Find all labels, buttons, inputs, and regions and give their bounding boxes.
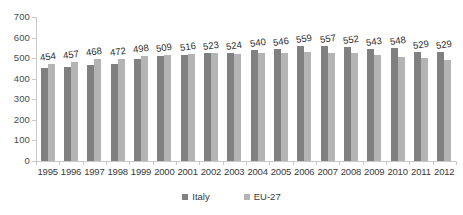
x-axis-tick (409, 161, 410, 165)
bar-italy[interactable] (134, 59, 141, 161)
x-axis-tick (433, 161, 434, 165)
y-axis-tick-label: 400 (4, 74, 30, 83)
bar-group: 468 (83, 17, 106, 161)
legend-item-italy[interactable]: Italy (182, 191, 209, 202)
bar-group: 516 (176, 17, 199, 161)
bar-eu-27[interactable] (188, 54, 195, 161)
bar-group: 548 (386, 17, 409, 161)
bar-group: 557 (316, 17, 339, 161)
bar-italy[interactable] (251, 50, 258, 161)
data-label: 516 (179, 41, 196, 53)
x-axis-category-labels: 1995199619971998199920002001200220032004… (36, 166, 456, 180)
bar-group: 498 (129, 17, 152, 161)
bar-italy[interactable] (274, 49, 281, 161)
bar-eu-27[interactable] (234, 54, 241, 161)
bar-italy[interactable] (64, 67, 71, 161)
data-label: 540 (249, 37, 266, 49)
bar-italy[interactable] (391, 48, 398, 161)
bar-italy[interactable] (41, 68, 48, 161)
y-axis-tick-label: 300 (4, 94, 30, 103)
x-axis-tick (106, 161, 107, 165)
bar-italy[interactable] (227, 53, 234, 161)
x-axis-tick-label: 2009 (363, 166, 386, 180)
bar-italy[interactable] (87, 65, 94, 161)
x-axis-tick (316, 161, 317, 165)
x-axis-tick-label: 2004 (246, 166, 269, 180)
bar-group: 540 (246, 17, 269, 161)
legend-item-eu-27[interactable]: EU-27 (244, 191, 281, 202)
bar-eu-27[interactable] (164, 55, 171, 161)
bar-italy[interactable] (181, 55, 188, 161)
bar-groups: 4544574684724985095165235245405465595575… (36, 17, 456, 161)
data-label: 524 (226, 40, 243, 52)
x-axis-tick (59, 161, 60, 165)
data-label: 523 (202, 40, 219, 52)
x-axis-tick (199, 161, 200, 165)
x-axis-tick-label: 1998 (106, 166, 129, 180)
bar-eu-27[interactable] (71, 62, 78, 161)
bar-eu-27[interactable] (118, 59, 125, 161)
x-axis-tick (293, 161, 294, 165)
data-label: 457 (62, 49, 79, 61)
x-axis-tick (363, 161, 364, 165)
data-label: 468 (86, 46, 103, 58)
legend-label: EU-27 (254, 191, 281, 202)
bar-group: 523 (199, 17, 222, 161)
bar-eu-27[interactable] (211, 53, 218, 161)
bar-eu-27[interactable] (141, 56, 148, 161)
bar-eu-27[interactable] (48, 64, 55, 161)
bar-eu-27[interactable] (351, 53, 358, 161)
data-label: 509 (156, 42, 173, 54)
y-axis-tick-label: 500 (4, 53, 30, 62)
x-axis-tick (386, 161, 387, 165)
bar-italy[interactable] (367, 49, 374, 161)
bar-italy[interactable] (437, 52, 444, 161)
data-label: 559 (296, 33, 313, 45)
bar-group: 509 (153, 17, 176, 161)
bar-eu-27[interactable] (421, 58, 428, 161)
y-axis-tick-label: 600 (4, 33, 30, 42)
bar-eu-27[interactable] (258, 53, 265, 161)
bar-eu-27[interactable] (374, 55, 381, 161)
x-axis-tick (269, 161, 270, 165)
bar-eu-27[interactable] (398, 57, 405, 162)
bar-eu-27[interactable] (281, 53, 288, 161)
bar-group: 546 (269, 17, 292, 161)
chart-legend: Italy EU-27 (0, 191, 463, 202)
bar-italy[interactable] (204, 53, 211, 161)
data-label: 454 (39, 51, 56, 63)
bar-group: 543 (363, 17, 386, 161)
legend-label: Italy (192, 191, 209, 202)
bar-eu-27[interactable] (94, 59, 101, 161)
bar-eu-27[interactable] (444, 60, 451, 161)
bar-italy[interactable] (157, 56, 164, 161)
bar-italy[interactable] (414, 52, 421, 161)
bar-group: 524 (223, 17, 246, 161)
bar-group: 529 (409, 17, 432, 161)
bar-group: 559 (293, 17, 316, 161)
bar-italy[interactable] (321, 46, 328, 161)
x-axis-tick-label: 2012 (433, 166, 456, 180)
x-axis-tick-label: 2002 (199, 166, 222, 180)
x-axis-tick-label: 2006 (293, 166, 316, 180)
bar-eu-27[interactable] (304, 52, 311, 161)
y-axis-tick-label: 200 (4, 115, 30, 124)
x-axis-tick-label: 2010 (386, 166, 409, 180)
bar-group: 454 (36, 17, 59, 161)
bar-group: 552 (339, 17, 362, 161)
x-axis-tick-label: 1996 (59, 166, 82, 180)
x-axis-tick (456, 161, 457, 165)
bar-italy[interactable] (111, 64, 118, 161)
data-label: 552 (342, 34, 359, 46)
x-axis-tick (83, 161, 84, 165)
x-axis-tick (176, 161, 177, 165)
bar-italy[interactable] (297, 46, 304, 161)
bar-eu-27[interactable] (328, 53, 335, 161)
bar-italy[interactable] (344, 47, 351, 161)
x-axis-tick (36, 161, 37, 165)
y-axis-tick-label: 700 (4, 12, 30, 21)
x-axis-tick-label: 1997 (83, 166, 106, 180)
x-axis-tick-label: 2003 (223, 166, 246, 180)
x-axis-tick (153, 161, 154, 165)
data-label: 529 (412, 39, 429, 51)
